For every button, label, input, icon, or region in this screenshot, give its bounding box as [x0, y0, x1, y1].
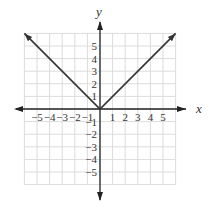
x-tick-label: 3 — [135, 111, 141, 123]
y-tick-label: −1 — [85, 116, 97, 128]
x-axis-label: x — [195, 101, 202, 116]
y-axis-label: y — [94, 4, 102, 19]
x-tick-label: −2 — [69, 111, 81, 123]
x-tick-label: 2 — [122, 111, 128, 123]
x-tick-label: 5 — [160, 111, 166, 123]
y-tick-label: −4 — [85, 153, 97, 165]
x-tick-label: 4 — [148, 111, 154, 123]
x-tick-label: 1 — [110, 111, 116, 123]
y-tick-label: −3 — [85, 141, 97, 153]
y-tick-label: 4 — [92, 53, 98, 65]
y-tick-label: −2 — [85, 128, 97, 140]
absolute-value-graph: −5−4−3−2−11234554321−1−2−3−4−5 x y — [0, 0, 208, 207]
y-tick-label: −5 — [85, 166, 97, 178]
x-tick-label: −5 — [31, 111, 43, 123]
x-tick-label: −3 — [56, 111, 68, 123]
y-tick-label: 2 — [92, 78, 98, 90]
x-tick-label: −4 — [44, 111, 56, 123]
y-tick-label: 3 — [92, 65, 98, 77]
y-tick-label: 5 — [92, 40, 98, 52]
